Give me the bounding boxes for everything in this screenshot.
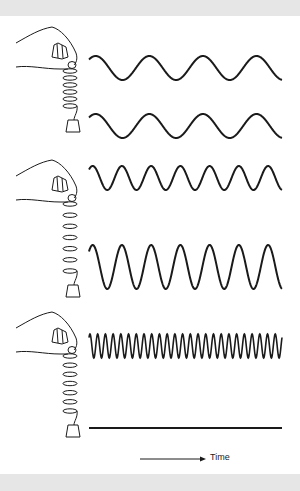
spring-coil — [63, 409, 77, 413]
spring-coil — [63, 400, 77, 404]
spring-coil — [63, 247, 77, 251]
hand-icon — [16, 312, 77, 354]
spring-coil — [63, 354, 77, 358]
spring-coil — [63, 391, 77, 395]
weight-icon — [66, 285, 80, 297]
hand-icon — [16, 27, 77, 69]
spring-coil — [63, 363, 77, 367]
spring-coil — [63, 90, 77, 94]
oscillation-diagram — [0, 0, 300, 491]
arrow-head-icon — [200, 457, 206, 462]
waveform-very-high-frequency — [89, 334, 282, 358]
spring-coil — [63, 83, 77, 87]
spring-coil — [63, 258, 77, 262]
spring-coil — [63, 69, 77, 73]
waveform-higher-frequency — [89, 166, 282, 190]
spring-coil — [63, 213, 77, 217]
hand-spring-weight-1 — [16, 27, 80, 132]
hand-spring-weight-2 — [16, 160, 80, 297]
time-arrow — [140, 457, 206, 462]
time-axis-label: Time — [210, 452, 230, 462]
waveform-velocity — [89, 114, 282, 138]
spring-coil — [63, 372, 77, 376]
waveform-higher-frequency-larger-amplitude — [89, 245, 282, 289]
spring-coil — [63, 269, 77, 273]
spring-coil — [63, 104, 77, 108]
hand-icon — [16, 160, 77, 202]
spring-coil — [63, 76, 77, 80]
spring-coil — [63, 235, 77, 239]
weight-icon — [66, 120, 80, 132]
waveform-position — [89, 56, 282, 80]
weight-icon — [66, 425, 80, 437]
spring-coil — [63, 202, 77, 206]
hand-spring-weight-3 — [16, 312, 80, 437]
spring-coil — [63, 224, 77, 228]
spring-coil — [63, 97, 77, 101]
spring-coil — [63, 381, 77, 385]
